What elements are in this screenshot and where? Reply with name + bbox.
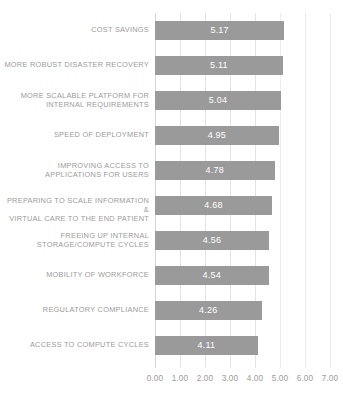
category-label: ACCESS TO COMPUTE CYCLES bbox=[3, 340, 149, 349]
category-label: PREPARING TO SCALE INFORMATION &VIRTUAL … bbox=[3, 196, 149, 224]
bar-row: 5.11 bbox=[155, 48, 330, 83]
bar-value-label: 4.11 bbox=[155, 336, 258, 355]
bar-value-label: 4.68 bbox=[155, 196, 272, 215]
bar-row: 4.11 bbox=[155, 328, 330, 363]
category-label-line: REGULATORY COMPLIANCE bbox=[3, 305, 149, 314]
category-label-line: IMPROVING ACCESS TO bbox=[3, 161, 149, 170]
category-label-line: MOBILITY OF WORKFORCE bbox=[3, 270, 149, 279]
category-label: COST SAVINGS bbox=[3, 25, 149, 34]
category-label: SPEED OF DEPLOYMENT bbox=[3, 130, 149, 139]
bar-row: 4.54 bbox=[155, 258, 330, 293]
x-tick-label: 7.00 bbox=[310, 374, 343, 383]
category-label-line: MORE SCALABLE PLATFORM FOR bbox=[3, 91, 149, 100]
bar-value-label: 4.54 bbox=[155, 266, 269, 285]
bar-row: 4.78 bbox=[155, 153, 330, 188]
x-axis: 0.001.002.003.004.005.006.007.00 bbox=[0, 368, 336, 388]
category-label-line: MORE ROBUST DISASTER RECOVERY bbox=[3, 60, 149, 69]
bar-value-label: 4.26 bbox=[155, 301, 262, 320]
gridline-7.00 bbox=[330, 13, 331, 368]
bar-value-label: 5.17 bbox=[155, 21, 284, 40]
category-label-line: STORAGE/COMPUTE CYCLES bbox=[3, 240, 149, 249]
category-label: MORE SCALABLE PLATFORM FORINTERNAL REQUI… bbox=[3, 91, 149, 110]
category-label-line: COST SAVINGS bbox=[3, 25, 149, 34]
category-label: MORE ROBUST DISASTER RECOVERY bbox=[3, 60, 149, 69]
bar-value-label: 4.78 bbox=[155, 161, 275, 180]
category-label-line: FREEING UP INTERNAL bbox=[3, 231, 149, 240]
plot-area: 5.175.115.044.954.784.684.564.544.264.11 bbox=[155, 13, 330, 368]
bar-value-label: 4.95 bbox=[155, 126, 279, 145]
category-label: MOBILITY OF WORKFORCE bbox=[3, 270, 149, 279]
bar-value-label: 5.11 bbox=[155, 56, 283, 75]
bar-row: 4.95 bbox=[155, 118, 330, 153]
bar-value-label: 4.56 bbox=[155, 231, 269, 250]
bar-row: 5.04 bbox=[155, 83, 330, 118]
category-label-line: APPLICATIONS FOR USERS bbox=[3, 170, 149, 179]
category-label-line: ACCESS TO COMPUTE CYCLES bbox=[3, 340, 149, 349]
category-label-line: INTERNAL REQUIREMENTS bbox=[3, 100, 149, 109]
category-label-line: VIRTUAL CARE TO THE END PATIENT bbox=[3, 214, 149, 223]
bar-row: 5.17 bbox=[155, 13, 330, 48]
category-label: REGULATORY COMPLIANCE bbox=[3, 305, 149, 314]
category-label-line: PREPARING TO SCALE INFORMATION & bbox=[3, 196, 149, 215]
category-label: IMPROVING ACCESS TOAPPLICATIONS FOR USER… bbox=[3, 161, 149, 180]
category-label: FREEING UP INTERNALSTORAGE/COMPUTE CYCLE… bbox=[3, 231, 149, 250]
bar-row: 4.68 bbox=[155, 188, 330, 223]
category-label-line: SPEED OF DEPLOYMENT bbox=[3, 130, 149, 139]
bar-row: 4.26 bbox=[155, 293, 330, 328]
bar-value-label: 5.04 bbox=[155, 91, 281, 110]
bar-row: 4.56 bbox=[155, 223, 330, 258]
